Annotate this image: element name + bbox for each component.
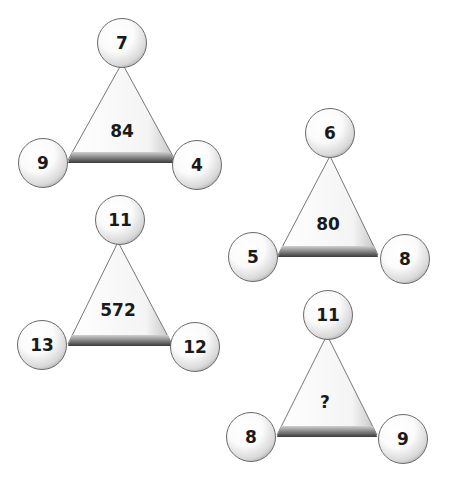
right-number-ball: 4 (172, 140, 222, 190)
right-number: 12 (183, 337, 207, 357)
center-number: 572 (88, 300, 148, 320)
top-number: 6 (324, 123, 336, 143)
left-number-ball: 9 (18, 138, 68, 188)
center-number: 84 (92, 121, 152, 141)
triangle-puzzle-4: 11 8 9 ? (220, 290, 450, 485)
top-number-ball: 6 (305, 108, 355, 158)
triangle-puzzle-3: 11 13 12 572 (0, 190, 225, 380)
right-number: 8 (399, 249, 411, 269)
left-number: 5 (247, 247, 259, 267)
top-number: 7 (116, 33, 128, 53)
top-number-ball: 11 (95, 195, 145, 245)
left-number: 13 (30, 335, 54, 355)
left-number-ball: 5 (228, 232, 278, 282)
top-number-ball: 7 (97, 18, 147, 68)
center-number-unknown: ? (295, 392, 355, 412)
right-number-ball: 12 (170, 322, 220, 372)
triangle-puzzle-1: 7 9 4 84 (0, 0, 225, 200)
triangle-puzzle-2: 6 5 8 80 (220, 100, 450, 290)
top-number: 11 (108, 210, 132, 230)
top-number: 11 (316, 305, 340, 325)
left-number-ball: 13 (17, 320, 67, 370)
right-number-ball: 8 (380, 234, 430, 284)
top-number-ball: 11 (303, 290, 353, 340)
left-number: 8 (245, 427, 257, 447)
right-number: 9 (397, 429, 409, 449)
left-number-ball: 8 (226, 412, 276, 462)
right-number: 4 (191, 155, 203, 175)
center-number: 80 (298, 214, 358, 234)
right-number-ball: 9 (378, 414, 428, 464)
left-number: 9 (37, 153, 49, 173)
